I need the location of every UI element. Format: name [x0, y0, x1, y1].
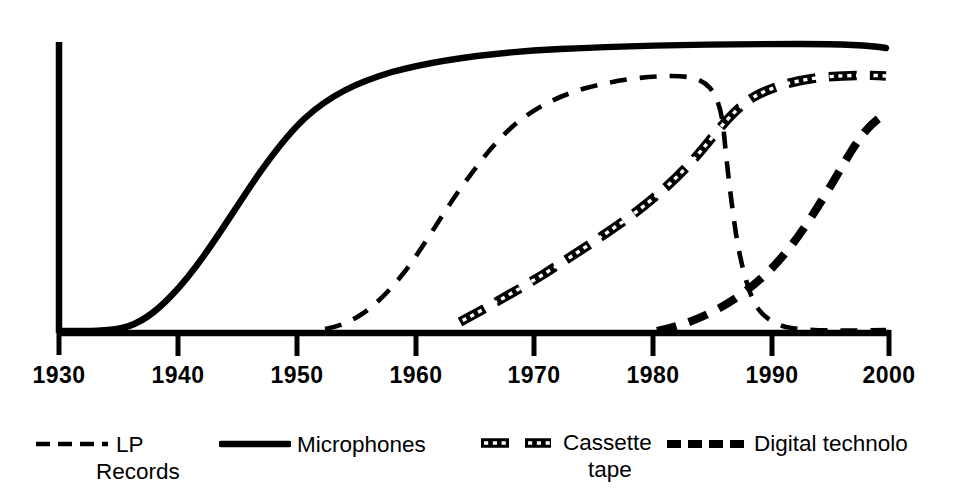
- series-line-digital-technology: [657, 116, 882, 331]
- x-tick-label-1990: 1990: [732, 362, 812, 389]
- legend-label-lp-records-line1: LP: [116, 432, 144, 458]
- legend-label-microphones: Microphones: [297, 432, 426, 458]
- technology-adoption-chart: 1930 1940 1950 1960 1970 1980 1990 2000 …: [0, 0, 958, 503]
- legend-swatch-digital-technology: [664, 436, 750, 452]
- legend-swatch-microphones: [219, 437, 291, 451]
- x-tick-label-1950: 1950: [257, 362, 337, 389]
- legend-label-cassette-tape-line2: tape: [588, 457, 632, 483]
- x-tick-label-2000: 2000: [849, 362, 929, 389]
- x-tick-label-1980: 1980: [613, 362, 693, 389]
- legend-label-lp-records-line2: Records: [96, 459, 180, 485]
- legend-label-digital-technology: Digital technolo: [754, 431, 908, 457]
- x-tick-label-1930: 1930: [19, 362, 99, 389]
- legend-label-cassette-tape-line1: Cassette: [563, 430, 652, 456]
- series-line-lp-records: [325, 76, 886, 331]
- legend-swatch-cassette-tape: [478, 435, 554, 451]
- x-tick-label-1940: 1940: [138, 362, 218, 389]
- x-tick-label-1960: 1960: [376, 362, 456, 389]
- chart-plot-area: [0, 0, 958, 503]
- series-line-cassette-tape: [460, 75, 886, 322]
- cassette-inner-dots: [460, 75, 886, 322]
- legend-swatch-lp-records: [34, 437, 110, 451]
- x-tick-label-1970: 1970: [494, 362, 574, 389]
- series-line-microphones: [62, 44, 886, 331]
